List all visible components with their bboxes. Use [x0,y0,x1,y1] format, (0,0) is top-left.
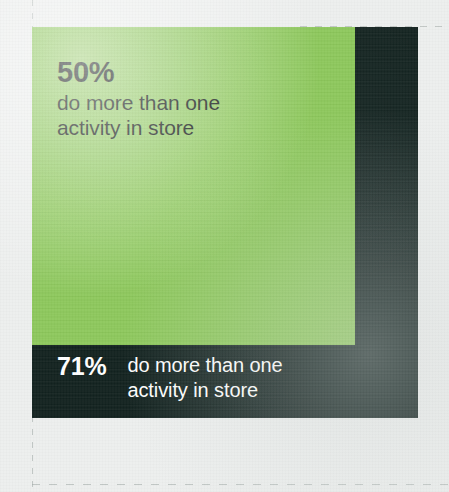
primary-stat-description: do more than one activity in store [57,90,327,140]
green-stat-group: 50% do more than one activity in store [57,55,327,140]
secondary-stat-value: 71% [57,352,106,380]
primary-stat-value: 50% [57,55,327,89]
dark-stat-group: 71% do more than one activity in store [57,352,407,403]
bottom-trim-guide [32,484,449,485]
infographic-panel: 50% do more than one activity in store 7… [0,0,449,492]
secondary-stat-description: do more than one activity in store [127,352,282,403]
